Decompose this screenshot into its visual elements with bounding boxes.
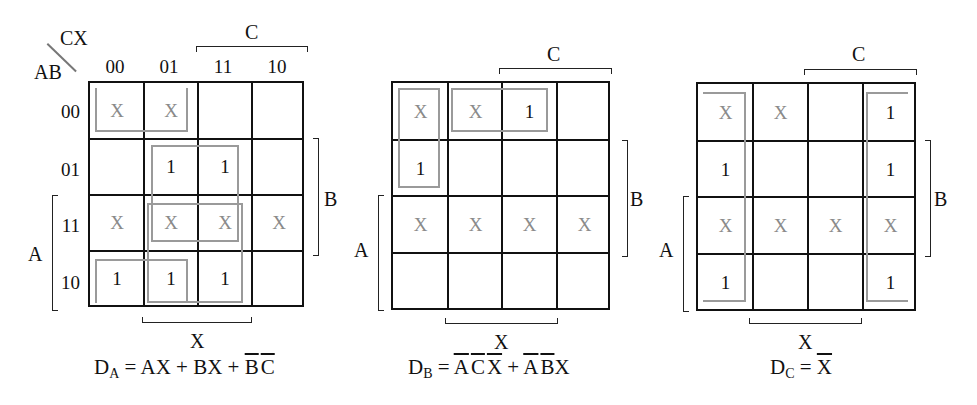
group-acx: [398, 88, 440, 188]
bracket-x: [445, 318, 558, 324]
cell: X: [448, 196, 503, 253]
cell: X: [557, 196, 612, 253]
label-c: C: [547, 44, 560, 64]
label-a: A: [354, 240, 368, 260]
bracket-a: [683, 196, 689, 312]
label-b: B: [934, 189, 947, 209]
equation-dc: DC = X: [770, 355, 832, 382]
cell: X: [808, 197, 863, 254]
equation-db: DB = ACX + ABX: [408, 355, 570, 382]
cell: X: [502, 196, 557, 253]
cell: X: [753, 197, 808, 254]
bracket-c: [804, 69, 917, 75]
cell: X: [753, 84, 808, 141]
label-x: X: [798, 332, 812, 352]
bracket-b: [925, 140, 931, 257]
label-x: X: [494, 332, 508, 352]
label-a: A: [659, 240, 673, 260]
kmap-dc: C B A X X X 1 1 1 X X X X 1 1 DC = X: [0, 0, 330, 405]
label-c: C: [852, 44, 865, 64]
label-b: B: [630, 189, 643, 209]
bracket-a: [378, 195, 384, 311]
cell: X: [393, 196, 448, 253]
bracket-c: [499, 68, 612, 74]
group-x-left: [703, 92, 746, 302]
bracket-x: [749, 318, 862, 324]
group-x-right: [866, 92, 908, 302]
bracket-b: [622, 140, 628, 257]
group-abx: [451, 88, 548, 132]
